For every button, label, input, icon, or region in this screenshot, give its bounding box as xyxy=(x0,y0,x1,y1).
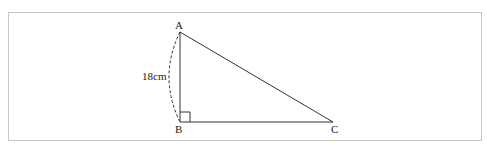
length-label-ab: 18cm xyxy=(142,71,166,82)
triangle-diagram xyxy=(0,0,487,146)
point-label-b: B xyxy=(175,124,182,135)
point-label-c: C xyxy=(331,124,338,135)
right-angle-marker xyxy=(180,112,190,122)
length-arc-AB xyxy=(169,32,180,122)
side-AC xyxy=(180,32,333,122)
point-label-a: A xyxy=(175,20,183,31)
